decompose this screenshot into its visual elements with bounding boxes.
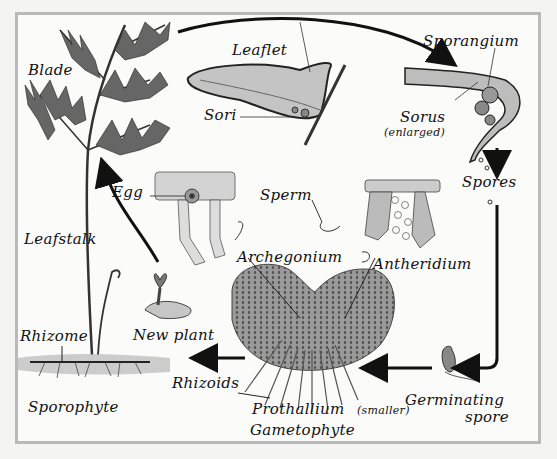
label-leaflet: Leaflet [232, 43, 287, 58]
label-sorus: Sorus [400, 110, 445, 125]
label-sorus-note: (enlarged) [384, 127, 445, 138]
label-antheridium: Antheridium [373, 257, 472, 272]
label-egg: Egg [112, 185, 143, 200]
label-sporangium: Sporangium [423, 34, 519, 49]
new-plant-drawing [145, 274, 191, 319]
label-archegonium: Archegonium [237, 250, 342, 265]
label-new-plant: New plant [133, 328, 214, 343]
label-spore: spore [465, 410, 509, 425]
archegonium-drawing [150, 172, 235, 265]
label-germinating: Germinating [405, 393, 504, 408]
label-spores: Spores [462, 175, 516, 190]
label-gametophyte: Gametophyte [250, 423, 355, 438]
label-leafstalk: Leafstalk [24, 232, 97, 247]
germinating-spore-drawing [442, 346, 480, 382]
rhizome-ground [17, 346, 170, 378]
prothallium-drawing [232, 258, 394, 412]
label-rhizome: Rhizome [20, 329, 88, 344]
label-sori: Sori [204, 108, 236, 123]
label-prothallium: Prothallium [252, 402, 345, 417]
label-blade: Blade [28, 63, 73, 78]
label-rhizoids: Rhizoids [172, 376, 239, 391]
label-prothallium-note: (smaller) [357, 405, 410, 416]
antheridium-drawing [365, 180, 440, 248]
label-sporophyte: Sporophyte [28, 400, 119, 415]
label-sperm: Sperm [260, 188, 312, 203]
